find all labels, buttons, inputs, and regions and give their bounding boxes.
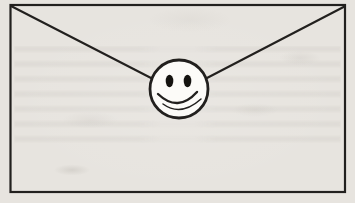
scanned-page: { "figure": { "kind": "scanned black-and…: [0, 0, 355, 203]
smiley-right-eye: [184, 75, 192, 87]
envelope-flap-left-line: [11, 6, 152, 79]
smiley-face-icon: [150, 60, 208, 118]
smiley-left-eye: [166, 75, 174, 87]
envelope-illustration: [0, 0, 355, 203]
envelope-flap-right-line: [206, 7, 345, 79]
